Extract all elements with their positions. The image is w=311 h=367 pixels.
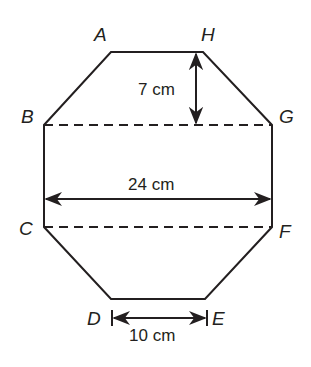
vertex-label-h: H <box>201 24 215 45</box>
vertex-label-g: G <box>279 106 294 127</box>
diagram-svg: A H B G C F D E 7 cm 24 cm 10 cm <box>0 0 311 367</box>
vertex-label-b: B <box>21 106 34 127</box>
octagon-diagram: A H B G C F D E 7 cm 24 cm 10 cm <box>0 0 311 367</box>
measure-label-7cm: 7 cm <box>138 80 175 99</box>
measure-label-24cm: 24 cm <box>128 175 174 194</box>
vertex-label-c: C <box>19 218 33 239</box>
vertex-label-d: D <box>87 308 101 329</box>
measure-label-10cm: 10 cm <box>129 326 175 345</box>
vertex-label-a: A <box>93 24 107 45</box>
vertex-label-e: E <box>212 308 225 329</box>
vertex-label-f: F <box>279 221 292 242</box>
